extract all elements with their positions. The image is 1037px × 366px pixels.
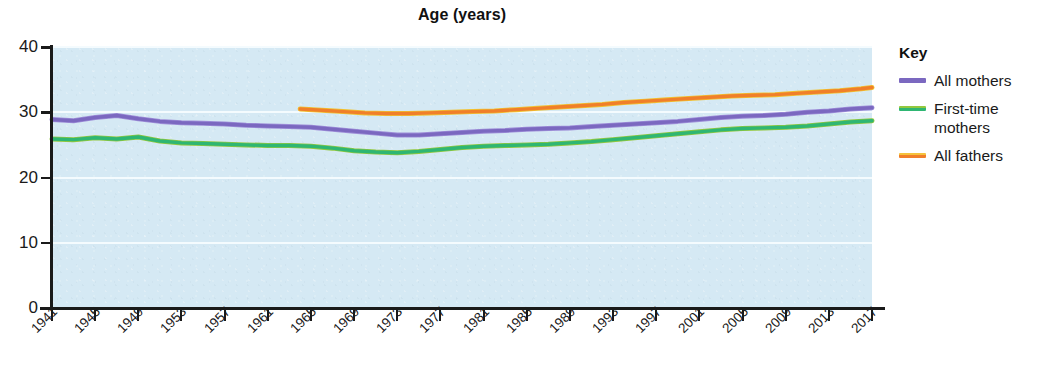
legend-item-all-mothers: All mothers — [899, 71, 1037, 90]
y-tick-label-40: 40 — [4, 38, 38, 55]
chart-title: Age (years) — [52, 6, 872, 24]
legend-label-line-1: First-time — [934, 100, 999, 117]
series-line-first-time-mothers — [52, 121, 872, 153]
legend-label-all-mothers: All mothers — [934, 71, 1012, 90]
chart-page: Age (years) 010203040 194119451949195319… — [0, 0, 1037, 366]
series-lines — [52, 47, 872, 308]
legend-label-line-2: mothers — [934, 119, 990, 136]
legend-swatch-first-time-mothers — [899, 106, 926, 111]
legend: Key All mothers First-time mothers All f… — [899, 44, 1037, 174]
x-tick-label-1941: 1941 — [29, 305, 60, 336]
legend-label-all-fathers: All fathers — [934, 146, 1003, 165]
y-tick-label-0: 0 — [4, 299, 38, 316]
legend-label-first-time-mothers: First-time mothers — [934, 99, 999, 137]
x-axis-line — [40, 307, 885, 310]
y-tick-label-30: 30 — [4, 103, 38, 120]
y-axis-line — [50, 45, 53, 310]
y-tick-label-20: 20 — [4, 169, 38, 186]
y-tick-label-10: 10 — [4, 234, 38, 251]
series-edge-all-fathers — [300, 87, 872, 113]
legend-swatch-all-mothers — [899, 78, 926, 83]
legend-item-all-fathers: All fathers — [899, 146, 1037, 165]
legend-item-first-time-mothers: First-time mothers — [899, 99, 1037, 137]
legend-swatch-all-fathers — [899, 153, 926, 158]
plot-area — [52, 47, 872, 308]
series-line-all-fathers — [300, 87, 872, 113]
legend-title: Key — [899, 44, 1037, 62]
